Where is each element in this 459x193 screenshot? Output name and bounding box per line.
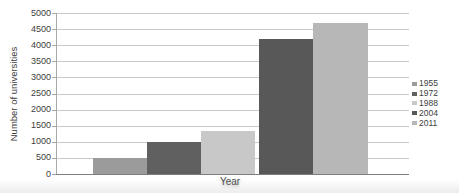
legend: 19551972198820042011 bbox=[412, 79, 438, 128]
legend-label: 2004 bbox=[419, 109, 438, 118]
legend-item-2004: 2004 bbox=[412, 108, 438, 118]
y-tick-label: 4000 bbox=[15, 41, 51, 50]
legend-label: 2011 bbox=[419, 119, 437, 128]
y-tick-label: 3000 bbox=[15, 73, 51, 82]
y-tick-label: 1000 bbox=[15, 137, 51, 146]
y-tick-label: 5000 bbox=[15, 9, 51, 18]
bar-chart: Number of universities Year 195519721988… bbox=[0, 0, 459, 193]
y-axis-line bbox=[56, 13, 57, 174]
legend-label: 1955 bbox=[419, 79, 438, 88]
legend-label: 1972 bbox=[419, 89, 438, 98]
y-tick-label: 4500 bbox=[15, 25, 51, 34]
legend-swatch-1988 bbox=[412, 101, 417, 105]
y-tick-label: 1500 bbox=[15, 121, 51, 130]
legend-swatch-1955 bbox=[412, 82, 417, 86]
legend-swatch-2011 bbox=[412, 121, 417, 125]
y-tick-label: 2000 bbox=[15, 105, 51, 114]
x-axis-title: Year bbox=[220, 176, 240, 187]
y-tick-label: 3500 bbox=[15, 57, 51, 66]
y-tick-label: 500 bbox=[15, 153, 51, 162]
x-axis-line bbox=[56, 174, 409, 175]
y-tick-label: 0 bbox=[15, 170, 51, 179]
legend-swatch-2004 bbox=[412, 111, 417, 115]
bar-1972 bbox=[147, 142, 201, 174]
bar-2004 bbox=[259, 39, 313, 174]
legend-item-1988: 1988 bbox=[412, 99, 438, 109]
bar-2011 bbox=[313, 23, 368, 174]
legend-label: 1988 bbox=[419, 99, 438, 108]
gridline bbox=[56, 13, 409, 14]
legend-swatch-1972 bbox=[412, 92, 417, 96]
bar-1988 bbox=[201, 131, 255, 174]
y-tick-label: 2500 bbox=[15, 89, 51, 98]
bar-1955 bbox=[93, 158, 147, 174]
legend-item-2011: 2011 bbox=[412, 118, 438, 128]
